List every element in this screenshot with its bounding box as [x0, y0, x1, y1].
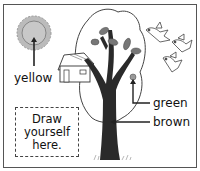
draw-box-line-3: here. [32, 139, 62, 152]
draw-box-line-2: yourself [24, 126, 70, 139]
sun-color-label: yellow [14, 72, 52, 84]
trunk-color-label: brown [153, 116, 190, 128]
trunk-pointer-arrow [110, 119, 150, 125]
bird-icon [163, 52, 182, 72]
bird-icon [172, 34, 192, 52]
sun-pointer-arrow [31, 37, 37, 66]
bird-icon [146, 22, 170, 42]
draw-box-line-1: Draw [32, 113, 62, 126]
leaf-color-label: green [153, 97, 188, 109]
draw-yourself-box[interactable]: Draw yourself here. [15, 107, 79, 157]
